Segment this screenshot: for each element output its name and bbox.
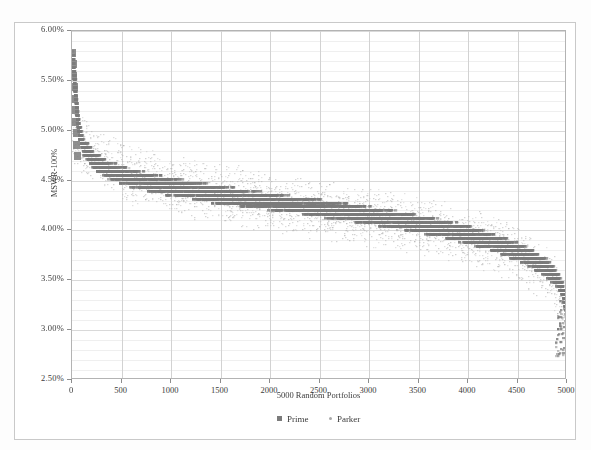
chart-figure: 2.50%3.00%3.50%4.00%4.50%5.00%5.50%6.00%… — [0, 0, 591, 450]
x-axis-tick — [418, 379, 419, 383]
x-axis-tick — [71, 379, 72, 383]
square-marker-icon — [277, 416, 282, 421]
x-axis-tick — [566, 379, 567, 383]
x-axis-tick — [220, 379, 221, 383]
x-axis-tick — [368, 379, 369, 383]
plot-area — [71, 30, 566, 379]
y-axis-title: MSWR-100% — [49, 113, 59, 233]
x-axis-tick — [319, 379, 320, 383]
legend-label-parker: Parker — [337, 414, 361, 424]
y-axis-tick — [67, 130, 71, 131]
y-axis-tick — [67, 279, 71, 280]
y-axis-tick-label: 2.50% — [18, 373, 64, 383]
legend-item-parker: Parker — [329, 413, 361, 424]
y-axis-tick-label: 3.50% — [18, 273, 64, 283]
y-axis-tick-label: 5.50% — [18, 74, 64, 84]
scatter-plot-canvas — [72, 31, 566, 379]
x-axis-tick — [170, 379, 171, 383]
y-axis-tick — [67, 329, 71, 330]
x-axis-tick — [467, 379, 468, 383]
y-axis-tick — [67, 30, 71, 31]
chart-legend: Prime Parker — [71, 413, 566, 424]
y-axis-tick-label: 6.00% — [18, 24, 64, 34]
data-layer — [72, 31, 565, 378]
y-axis-tick-label: 3.00% — [18, 323, 64, 333]
y-axis-tick — [67, 180, 71, 181]
legend-item-prime: Prime — [277, 413, 309, 424]
x-axis-title: 5000 Random Portfolios — [71, 390, 566, 400]
dot-marker-icon — [329, 417, 332, 420]
y-axis-tick — [67, 80, 71, 81]
x-axis-tick — [121, 379, 122, 383]
x-axis-tick — [517, 379, 518, 383]
y-axis-tick — [67, 229, 71, 230]
legend-label-prime: Prime — [287, 414, 309, 424]
x-axis-tick — [269, 379, 270, 383]
